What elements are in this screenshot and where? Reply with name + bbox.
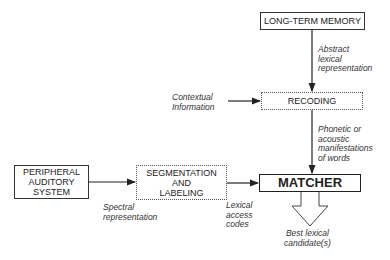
node-peripheral-auditory-system: PERIPHERAL AUDITORY SYSTEM [14, 165, 89, 199]
label-abstract-lexical: Abstract lexical representation [318, 45, 372, 74]
label-contextual-information: Contextual Information [172, 93, 215, 112]
label-spectral-representation: Spectral representation [103, 203, 157, 222]
diagram-canvas: LONG-TERM MEMORY Abstract lexical repres… [0, 0, 390, 260]
node-label: RECODING [288, 96, 337, 106]
node-long-term-memory: LONG-TERM MEMORY [260, 12, 365, 30]
node-label: LONG-TERM MEMORY [264, 16, 361, 26]
label-phonetic-manifestations: Phonetic or acoustic manifestations of w… [318, 125, 373, 163]
label-best-lexical-candidates: Best lexical candidate(s) [284, 229, 331, 248]
label-lexical-access-codes: Lexical access codes [226, 201, 252, 230]
node-label: MATCHER [278, 178, 342, 188]
output-arrow-icon [292, 191, 328, 226]
node-label: PERIPHERAL AUDITORY SYSTEM [23, 167, 80, 197]
node-label: SEGMENTATION AND LABELING [146, 168, 217, 198]
node-segmentation-labeling: SEGMENTATION AND LABELING [136, 165, 227, 200]
node-recoding: RECODING [261, 92, 363, 110]
node-matcher: MATCHER [259, 174, 361, 192]
